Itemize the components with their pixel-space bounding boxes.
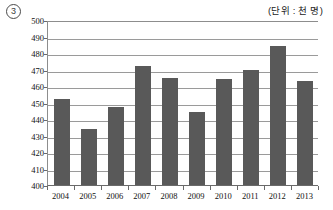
bar-chart-figure: 3 (단위 : 천 명) 500490480470460450440430420… (0, 0, 333, 210)
y-axis-tick-label: 500 (31, 17, 44, 26)
x-axis-tick-label: 2006 (101, 192, 128, 201)
y-axis-tick-mark (44, 87, 47, 88)
x-axis-tick-mark (291, 186, 292, 190)
y-axis-tick-mark (44, 38, 47, 39)
x-axis-tick-label: 2005 (74, 192, 101, 201)
y-axis-tick-mark (44, 153, 47, 154)
gridline (48, 39, 318, 40)
bar (297, 81, 313, 185)
x-axis-tick-mark (318, 186, 319, 190)
y-axis-tick-mark (44, 21, 47, 22)
bar (243, 70, 259, 186)
x-axis-tick-label: 2009 (183, 192, 210, 201)
x-axis-tick-mark (128, 186, 129, 190)
x-axis-tick-label: 2012 (264, 192, 291, 201)
bar (81, 129, 97, 185)
x-axis-tick-label: 2008 (155, 192, 182, 201)
y-axis-tick-mark (44, 137, 47, 138)
x-axis-tick-mark (210, 186, 211, 190)
bar (189, 112, 205, 185)
x-axis-tick-label: 2004 (47, 192, 74, 201)
x-axis-tick-mark (155, 186, 156, 190)
bar (270, 46, 286, 185)
x-axis-tick-label: 2011 (237, 192, 264, 201)
unit-caption-label: (단위 : 천 명) (268, 3, 323, 17)
x-axis-tick-label: 2007 (128, 192, 155, 201)
bar (108, 107, 124, 185)
y-axis-tick-label: 470 (31, 67, 44, 76)
bar (54, 99, 70, 185)
y-axis-tick-label: 420 (31, 149, 44, 158)
x-axis-tick-mark (74, 186, 75, 190)
x-axis-tick-label: 2013 (291, 192, 318, 201)
y-axis-tick-mark (44, 120, 47, 121)
y-axis-tick-label: 480 (31, 50, 44, 59)
plot-area (47, 21, 318, 186)
y-axis-tick-label: 460 (31, 83, 44, 92)
x-axis-tick-mark (183, 186, 184, 190)
y-axis-tick-label: 440 (31, 116, 44, 125)
y-axis-tick-label: 450 (31, 100, 44, 109)
y-axis-tick-mark (44, 71, 47, 72)
item-number-badge: 3 (6, 4, 21, 19)
y-axis-tick-mark (44, 170, 47, 171)
y-axis-tick-label: 400 (31, 182, 44, 191)
x-axis-tick-mark (101, 186, 102, 190)
x-axis-tick-mark (264, 186, 265, 190)
x-axis-tick-mark (47, 186, 48, 190)
y-axis-tick-mark (44, 54, 47, 55)
y-axis-tick-label: 430 (31, 133, 44, 142)
x-axis-tick-mark (237, 186, 238, 190)
y-axis-tick-label: 490 (31, 34, 44, 43)
x-axis-tick-label: 2010 (210, 192, 237, 201)
bar (216, 79, 232, 185)
bar (135, 66, 151, 185)
y-axis-tick-mark (44, 104, 47, 105)
bar (162, 78, 178, 185)
y-axis-tick-label: 410 (31, 166, 44, 175)
